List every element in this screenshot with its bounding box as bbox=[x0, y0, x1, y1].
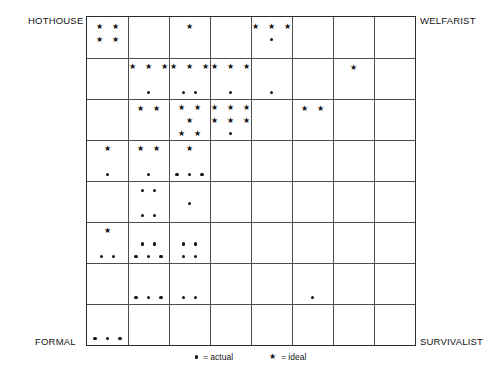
actual-marker-dot-icon bbox=[112, 255, 115, 258]
dot-icon bbox=[195, 355, 198, 358]
plot-grid bbox=[86, 16, 416, 346]
ideal-marker-star-icon bbox=[178, 103, 185, 112]
actual-marker-dot-icon bbox=[194, 242, 197, 245]
ideal-marker-star-icon bbox=[186, 116, 193, 125]
grid-cell bbox=[169, 263, 210, 304]
grid-cell bbox=[210, 99, 251, 140]
ideal-marker-star-icon bbox=[301, 104, 308, 113]
marker-row bbox=[169, 143, 210, 156]
ideal-marker-star-icon bbox=[194, 103, 201, 112]
marker-row bbox=[169, 61, 210, 74]
ideal-marker-star-icon bbox=[129, 62, 136, 71]
actual-marker-dot-icon bbox=[194, 255, 197, 258]
ideal-marker-star-icon bbox=[96, 35, 103, 44]
actual-marker-dot-icon bbox=[134, 255, 137, 258]
marker-row bbox=[251, 86, 292, 99]
grid-cell bbox=[128, 181, 169, 222]
grid-cell bbox=[251, 58, 292, 99]
marker-row bbox=[128, 250, 169, 263]
actual-marker-dot-icon bbox=[182, 242, 185, 245]
ideal-marker-star-icon bbox=[178, 129, 185, 138]
marker-row bbox=[128, 209, 169, 222]
grid-cell bbox=[292, 263, 333, 304]
grid-cell bbox=[169, 140, 210, 181]
actual-marker-dot-icon bbox=[147, 296, 150, 299]
marker-row bbox=[169, 102, 210, 115]
actual-marker-dot-icon bbox=[134, 296, 137, 299]
marker-row bbox=[210, 86, 251, 99]
actual-marker-dot-icon bbox=[229, 132, 232, 135]
grid-cell bbox=[169, 58, 210, 99]
actual-marker-dot-icon bbox=[106, 337, 109, 340]
marker-row bbox=[87, 168, 128, 181]
ideal-marker-star-icon bbox=[211, 103, 218, 112]
grid-cell bbox=[169, 181, 210, 222]
grid-cell bbox=[128, 140, 169, 181]
grid-cell bbox=[169, 222, 210, 263]
ideal-marker-star-icon bbox=[350, 63, 357, 72]
legend-item-label: = ideal bbox=[281, 352, 306, 362]
marker-row bbox=[210, 115, 251, 128]
marker-row bbox=[292, 102, 333, 115]
actual-marker-dot-icon bbox=[147, 91, 150, 94]
marker-row bbox=[169, 86, 210, 99]
actual-marker-dot-icon bbox=[147, 173, 150, 176]
ideal-marker-star-icon bbox=[227, 62, 234, 71]
ideal-marker-star-icon bbox=[104, 226, 111, 235]
corner-label-bottom-left: FORMAL bbox=[35, 337, 76, 347]
ideal-marker-star-icon bbox=[137, 144, 144, 153]
legend: = actual= ideal bbox=[0, 352, 501, 362]
marker-row bbox=[251, 33, 292, 46]
actual-marker-dot-icon bbox=[147, 255, 150, 258]
grid-cell bbox=[169, 17, 210, 58]
ideal-marker-star-icon bbox=[186, 62, 193, 71]
ideal-marker-star-icon bbox=[186, 144, 193, 153]
actual-marker-dot-icon bbox=[141, 189, 144, 192]
actual-marker-dot-icon bbox=[182, 91, 185, 94]
marker-row bbox=[128, 102, 169, 115]
actual-marker-dot-icon bbox=[270, 91, 273, 94]
marker-row bbox=[87, 225, 128, 238]
actual-marker-dot-icon bbox=[153, 214, 156, 217]
star-icon bbox=[269, 353, 276, 361]
grid-cell bbox=[87, 140, 128, 181]
ideal-marker-star-icon bbox=[104, 144, 111, 153]
actual-marker-dot-icon bbox=[200, 173, 203, 176]
legend-item-label: = actual bbox=[203, 352, 233, 362]
ideal-marker-star-icon bbox=[317, 104, 324, 113]
marker-row bbox=[169, 291, 210, 304]
actual-marker-dot-icon bbox=[159, 255, 162, 258]
grid-line-horizontal bbox=[87, 304, 415, 305]
ideal-marker-star-icon bbox=[284, 22, 291, 31]
actual-marker-dot-icon bbox=[188, 202, 191, 205]
marker-row bbox=[128, 168, 169, 181]
actual-marker-dot-icon bbox=[182, 296, 185, 299]
ideal-marker-star-icon bbox=[137, 104, 144, 113]
ideal-marker-star-icon bbox=[153, 144, 160, 153]
marker-row bbox=[292, 291, 333, 304]
ideal-marker-star-icon bbox=[227, 103, 234, 112]
marker-row bbox=[128, 61, 169, 74]
ideal-marker-star-icon bbox=[243, 62, 250, 71]
marker-row bbox=[169, 168, 210, 181]
ideal-marker-star-icon bbox=[243, 116, 250, 125]
ideal-marker-star-icon bbox=[227, 116, 234, 125]
grid-cell bbox=[251, 17, 292, 58]
marker-row bbox=[87, 20, 128, 33]
ideal-marker-star-icon bbox=[145, 62, 152, 71]
ideal-marker-star-icon bbox=[112, 35, 119, 44]
marker-row bbox=[169, 197, 210, 210]
actual-marker-dot-icon bbox=[153, 242, 156, 245]
marker-row bbox=[128, 86, 169, 99]
actual-marker-dot-icon bbox=[159, 296, 162, 299]
grid-cell bbox=[333, 58, 374, 99]
grid-cell bbox=[87, 304, 128, 345]
grid-cell bbox=[128, 58, 169, 99]
actual-marker-dot-icon bbox=[153, 189, 156, 192]
grid-cell bbox=[87, 222, 128, 263]
actual-marker-dot-icon bbox=[141, 214, 144, 217]
marker-row bbox=[169, 20, 210, 33]
grid-cell bbox=[128, 222, 169, 263]
actual-marker-dot-icon bbox=[175, 173, 178, 176]
actual-marker-dot-icon bbox=[93, 337, 96, 340]
